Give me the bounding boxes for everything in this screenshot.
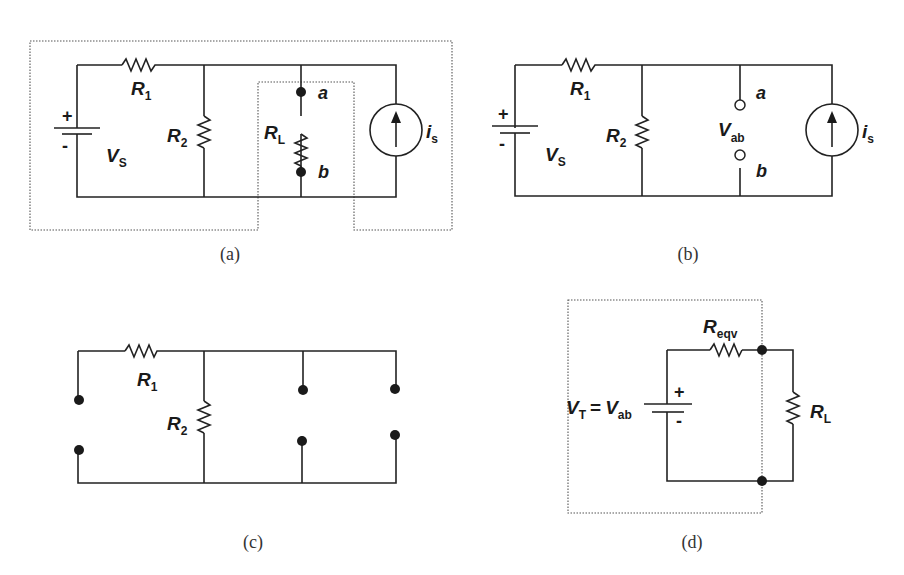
label-r1: R1 bbox=[570, 78, 591, 103]
terminal-a-open-icon bbox=[735, 100, 745, 110]
minus-sign: - bbox=[62, 136, 68, 156]
wire-network bbox=[515, 65, 832, 196]
source-removed-terminal-dot bbox=[74, 395, 84, 405]
terminal-b-dot bbox=[297, 436, 307, 446]
resistor-r2-icon bbox=[198, 401, 210, 433]
label-r2: R2 bbox=[167, 125, 188, 150]
label-reqv: Reqv bbox=[703, 316, 738, 341]
label-vs: VS bbox=[545, 144, 566, 169]
caption-b: (b) bbox=[678, 244, 699, 265]
wire-network bbox=[77, 65, 396, 197]
label-vs: VS bbox=[106, 145, 127, 170]
plus-sign: + bbox=[62, 106, 73, 126]
resistor-r1-icon bbox=[122, 59, 157, 71]
label-b: b bbox=[756, 161, 767, 181]
plus-sign: + bbox=[674, 382, 685, 402]
label-r1: R1 bbox=[131, 78, 152, 103]
wire-network bbox=[667, 350, 793, 481]
terminal-b-dot bbox=[757, 476, 767, 486]
terminal-b-dot bbox=[296, 167, 306, 177]
caption-c: (c) bbox=[243, 532, 263, 553]
minus-sign: - bbox=[499, 134, 505, 154]
thevenin-region-outline bbox=[30, 41, 452, 230]
label-vt-eq-vab: VT=Vab bbox=[566, 397, 632, 422]
resistor-r2-icon bbox=[198, 116, 210, 148]
panel-c: R1 R2 (c) bbox=[74, 345, 400, 553]
label-r2: R2 bbox=[167, 413, 188, 438]
terminal-a-dot bbox=[296, 87, 306, 97]
label-b: b bbox=[318, 162, 329, 182]
label-vab: Vab bbox=[718, 119, 745, 145]
label-a: a bbox=[756, 83, 766, 103]
current-source-removed-dot bbox=[390, 430, 400, 440]
source-removed-terminal-dot bbox=[74, 445, 84, 455]
circuit-figure: + - R1 R2 RL VS is a b (a) + - R1 R2 Va bbox=[0, 0, 904, 575]
terminal-a-dot bbox=[757, 345, 767, 355]
arrow-up-icon bbox=[391, 111, 401, 123]
arrow-up-icon bbox=[827, 111, 837, 123]
current-source-removed-dot bbox=[390, 384, 400, 394]
panel-b: + - R1 R2 Vab VS is a b (b) bbox=[492, 59, 874, 265]
terminal-b-open-icon bbox=[735, 150, 745, 160]
label-rl: RL bbox=[810, 401, 831, 426]
label-r1: R1 bbox=[137, 369, 158, 394]
label-r2: R2 bbox=[606, 125, 627, 150]
resistor-reqv-icon bbox=[710, 344, 742, 356]
terminal-a-dot bbox=[298, 385, 308, 395]
label-is: is bbox=[426, 121, 438, 146]
panel-d: + - VT=Vab Reqv RL (d) bbox=[566, 300, 831, 553]
caption-d: (d) bbox=[682, 532, 703, 553]
label-rl: RL bbox=[264, 122, 285, 147]
label-a: a bbox=[318, 83, 328, 103]
resistor-rl-icon bbox=[787, 392, 799, 424]
resistor-r2-icon bbox=[636, 116, 648, 148]
label-is: is bbox=[862, 121, 874, 146]
panel-a: + - R1 R2 RL VS is a b (a) bbox=[30, 41, 452, 265]
resistor-r1-icon bbox=[125, 345, 158, 357]
plus-sign: + bbox=[498, 104, 509, 124]
minus-sign: - bbox=[676, 411, 682, 431]
resistor-r1-icon bbox=[562, 59, 597, 71]
caption-a: (a) bbox=[220, 244, 240, 265]
wire-network bbox=[78, 351, 396, 483]
